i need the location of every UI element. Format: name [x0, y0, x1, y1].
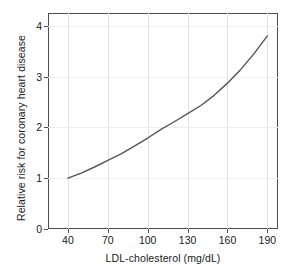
- chart-figure: Relative risk for coronary heart disease…: [0, 0, 293, 277]
- x-tick-label-100: 100: [128, 234, 168, 246]
- y-tick-label-0: 0: [26, 224, 42, 234]
- x-tick-label-190: 190: [247, 234, 287, 246]
- x-tick-label-70: 70: [88, 234, 128, 246]
- x-tick-mark-40: [68, 229, 69, 233]
- x-tick-label-160: 160: [207, 234, 247, 246]
- x-tick-mark-160: [227, 229, 228, 233]
- risk-curve: [48, 13, 278, 229]
- y-tick-label-4: 4: [26, 21, 42, 31]
- x-tick-mark-190: [267, 229, 268, 233]
- x-tick-mark-70: [108, 229, 109, 233]
- x-tick-label-40: 40: [48, 234, 88, 246]
- y-tick-label-3: 3: [26, 72, 42, 82]
- x-axis-tick-labels: 4070100130160190: [0, 234, 293, 246]
- x-tick-mark-100: [148, 229, 149, 233]
- x-tick-mark-130: [188, 229, 189, 233]
- y-tick-mark-0: [44, 229, 48, 230]
- plot-area: [48, 13, 278, 229]
- x-axis-title: LDL-cholesterol (mg/dL): [48, 252, 278, 265]
- x-tick-label-130: 130: [168, 234, 208, 246]
- y-tick-label-2: 2: [26, 122, 42, 132]
- y-tick-label-1: 1: [26, 173, 42, 183]
